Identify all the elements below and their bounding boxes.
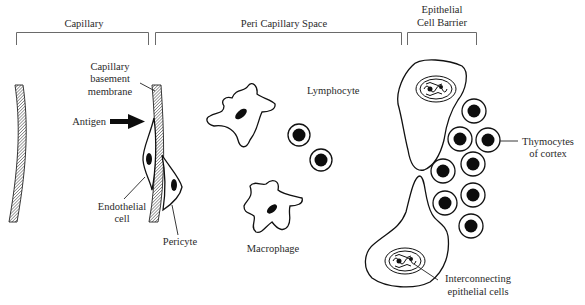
label-endothelial-line1: Endothelial	[98, 201, 146, 212]
section-label-epithelial-line1: Epithelial	[422, 4, 463, 15]
bracket-capillary	[17, 33, 149, 46]
lymphocyte-1	[288, 124, 310, 146]
label-lymphocyte: Lymphocyte	[307, 85, 360, 96]
epithelial-nucleus-lower	[385, 248, 425, 274]
section-peri-capillary-space: Peri Capillary Space	[156, 18, 402, 45]
capillary-wall-left	[9, 85, 26, 222]
endothelial-nucleus	[146, 153, 152, 165]
label-thymocytes-line1: Thymocytes	[522, 136, 574, 147]
label-pericyte: Pericyte	[163, 236, 198, 247]
label-macrophage: Macrophage	[247, 243, 300, 254]
section-label-epithelial-line2: Cell Barrier	[417, 17, 467, 28]
epithelial-nucleus-upper	[416, 76, 456, 102]
label-antigen: Antigen	[72, 116, 107, 127]
leader-endothelial	[124, 177, 145, 199]
section-capillary: Capillary	[17, 18, 149, 45]
section-label-peri-capillary-space: Peri Capillary Space	[241, 18, 328, 29]
label-basement-line1: Capillary	[90, 61, 130, 72]
thymocyte-8	[459, 214, 483, 238]
thymus-blood-barrier-diagram: Capillary Peri Capillary Space Epithelia…	[0, 0, 585, 305]
section-epithelial-cell-barrier: Epithelial Cell Barrier	[408, 4, 477, 45]
thymocyte-2	[448, 127, 472, 151]
bracket-peri-capillary-space	[156, 33, 402, 46]
label-thymocytes-line2: of cortex	[529, 148, 567, 159]
thymocyte-7	[433, 191, 457, 215]
thymocyte-5	[431, 159, 455, 183]
thymocyte-4	[461, 152, 485, 176]
label-basement-line2: basement	[90, 73, 130, 84]
label-interconnecting-line1: Interconnecting	[445, 273, 512, 284]
lymphocyte-2	[310, 149, 332, 171]
leader-pericyte	[172, 205, 178, 235]
label-endothelial-line2: cell	[114, 213, 129, 224]
section-label-capillary: Capillary	[64, 18, 104, 29]
label-basement-line3: membrane	[88, 86, 133, 97]
thymocyte-1	[462, 99, 486, 123]
pericyte-nucleus	[171, 179, 177, 191]
label-interconnecting-line2: epithelial cells	[448, 286, 509, 297]
antigen-arrow-icon	[110, 114, 145, 129]
thymocyte-6	[461, 183, 485, 207]
bracket-epithelial-cell-barrier	[408, 33, 477, 46]
thymocyte-3	[476, 128, 500, 152]
